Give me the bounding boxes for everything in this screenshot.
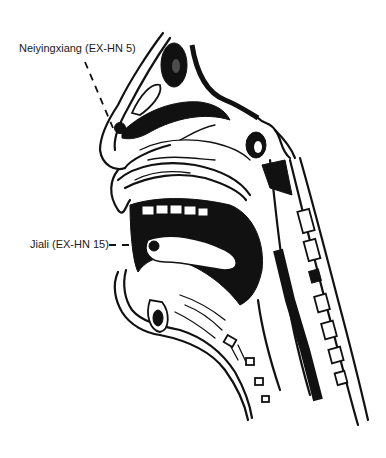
nose-profile xyxy=(100,33,170,169)
chin-outer xyxy=(115,272,248,420)
cervical-spine xyxy=(290,158,368,425)
upper-lip xyxy=(111,170,130,213)
hyoid-muscles xyxy=(175,295,246,362)
head-section-drawing xyxy=(0,0,386,458)
epiglottis xyxy=(235,285,251,301)
neiyingxiang-point xyxy=(115,123,126,134)
jiali-point xyxy=(149,241,159,251)
anatomy-figure: Neiyingxiang (EX-HN 5) Jiali (EX-HN 15) xyxy=(0,0,386,458)
